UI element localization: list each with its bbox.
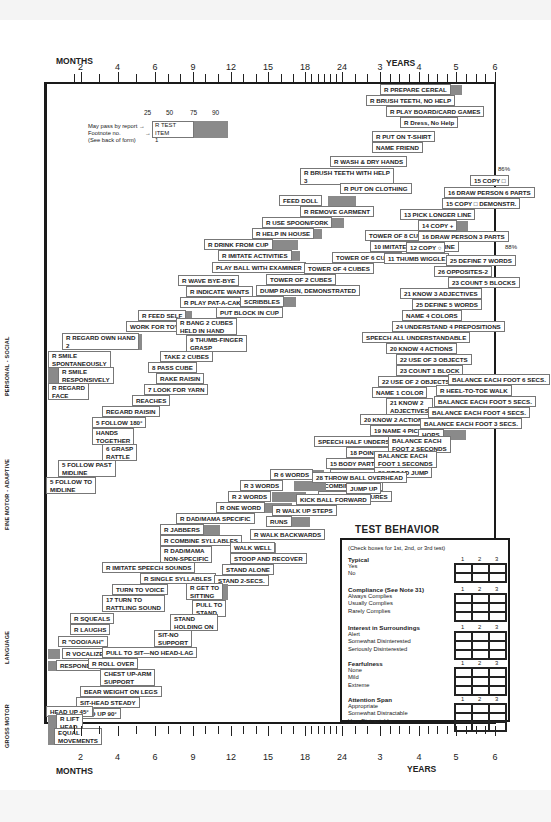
milestone-item[interactable]: R ONE WORD xyxy=(216,502,265,513)
milestone-item[interactable]: JUMP UP xyxy=(346,483,381,494)
behavior-checkbox[interactable] xyxy=(489,722,506,731)
milestone-item[interactable]: BALANCE EACH FOOT 3 SECS. xyxy=(420,418,522,429)
behavior-checkbox[interactable] xyxy=(472,641,489,650)
milestone-item[interactable]: SIT-NO SUPPORT xyxy=(154,630,192,647)
milestone-item[interactable]: 13 PICK LONGER LINE xyxy=(400,209,475,220)
milestone-item[interactable]: 14 COPY + xyxy=(418,220,457,231)
behavior-checkbox[interactable] xyxy=(472,668,489,677)
milestone-item[interactable]: HANDS TOGETHER xyxy=(92,428,134,445)
milestone-item[interactable]: SCRIBBLES xyxy=(240,296,284,307)
behavior-checkbox[interactable] xyxy=(455,603,472,612)
milestone-item[interactable]: STOOP AND RECOVER xyxy=(230,553,307,564)
milestone-item[interactable]: 11 THUMB WIGGLE xyxy=(384,253,449,264)
milestone-item[interactable]: 21 KNOW 2 ADJECTIVES xyxy=(386,398,433,415)
behavior-checkbox[interactable] xyxy=(489,594,506,603)
behavior-checkbox[interactable] xyxy=(455,650,472,659)
behavior-checkbox[interactable] xyxy=(489,641,506,650)
behavior-checkbox[interactable] xyxy=(472,650,489,659)
behavior-checkbox[interactable] xyxy=(489,564,506,573)
milestone-item[interactable]: 17 TURN TO RATTLING SOUND xyxy=(102,595,165,612)
behavior-checkbox[interactable] xyxy=(455,677,472,686)
milestone-item[interactable]: 9 THUMB-FINGER GRASP xyxy=(186,335,247,352)
behavior-checkbox[interactable] xyxy=(489,713,506,722)
milestone-item[interactable]: R 2 WORDS xyxy=(228,491,271,502)
milestone-item[interactable]: R USE SPOON/FORK xyxy=(262,217,332,228)
milestone-item[interactable]: NAME 1 COLOR xyxy=(372,387,427,398)
milestone-item[interactable]: BALANCE EACH FOOT 5 SECS. xyxy=(434,396,536,407)
milestone-item[interactable]: 5 FOLLOW 180° xyxy=(92,417,146,428)
milestone-item[interactable]: R REGARD OWN HAND 2 xyxy=(62,333,139,350)
milestone-item[interactable]: BALANCE EACH FOOT 4 SECS. xyxy=(428,407,530,418)
milestone-item[interactable]: R WALK UP STEPS xyxy=(272,505,337,516)
milestone-item[interactable]: R WAVE BYE-BYE xyxy=(178,275,239,286)
milestone-item[interactable]: NAME 4 COLORS xyxy=(402,310,462,321)
milestone-item[interactable]: R PUT ON CLOTHING xyxy=(340,183,412,194)
behavior-checkbox[interactable] xyxy=(472,632,489,641)
milestone-item[interactable]: 12 COPY ○ xyxy=(406,242,445,253)
milestone-item[interactable]: TOWER OF 4 CUBES xyxy=(304,263,374,274)
milestone-item[interactable]: TURN TO VOICE xyxy=(112,584,168,595)
milestone-item[interactable]: STAND HOLDING ON xyxy=(170,614,218,631)
milestone-item[interactable]: 25 DEFINE 5 WORDS xyxy=(412,299,482,310)
behavior-checkbox[interactable] xyxy=(455,612,472,621)
milestone-item[interactable]: R BRUSH TEETH, NO HELP xyxy=(366,95,455,106)
milestone-item[interactable]: PULL TO SIT—NO HEAD-LAG xyxy=(102,647,197,658)
behavior-checkbox[interactable] xyxy=(472,722,489,731)
behavior-checkbox[interactable] xyxy=(472,686,489,695)
milestone-item[interactable]: DUMP RAISIN, DEMONSTRATED xyxy=(256,285,360,296)
milestone-item[interactable]: R SMILE SPONTANEOUSLY xyxy=(48,351,111,368)
behavior-checkbox[interactable] xyxy=(472,573,489,582)
milestone-item[interactable]: 8 PASS CUBE xyxy=(148,362,197,373)
behavior-checkbox[interactable] xyxy=(472,594,489,603)
milestone-item[interactable]: R IMITATE SPEECH SOUNDS xyxy=(102,562,195,573)
behavior-checkbox[interactable] xyxy=(455,564,472,573)
milestone-item[interactable]: STAND ALONE xyxy=(222,564,274,575)
milestone-item[interactable]: R PUT ON T-SHIRT xyxy=(372,131,435,142)
milestone-item[interactable]: 15 COPY □ xyxy=(470,175,509,186)
behavior-checkbox[interactable] xyxy=(472,713,489,722)
milestone-item[interactable]: R Dress, No Help xyxy=(400,117,458,128)
behavior-checkbox[interactable] xyxy=(472,612,489,621)
milestone-item[interactable]: R ROLL OVER xyxy=(88,658,138,669)
milestone-item[interactable]: R DAD/MAMA NON-SPECIFIC xyxy=(160,546,212,563)
milestone-item[interactable]: R DRINK FROM CUP xyxy=(204,239,273,250)
behavior-checkbox[interactable] xyxy=(489,650,506,659)
milestone-item[interactable]: EQUAL MOVEMENTS xyxy=(54,728,102,745)
milestone-item[interactable]: R BANG 2 CUBES HELD IN HAND xyxy=(176,318,237,335)
behavior-checkbox[interactable] xyxy=(455,713,472,722)
milestone-item[interactable]: BEAR WEIGHT ON LEGS xyxy=(80,686,162,697)
behavior-checkbox[interactable] xyxy=(489,668,506,677)
behavior-checkbox[interactable] xyxy=(489,632,506,641)
behavior-checkbox[interactable] xyxy=(455,641,472,650)
milestone-item[interactable]: WORK FOR TOY xyxy=(126,321,183,332)
milestone-item[interactable]: R JABBERS xyxy=(160,524,204,535)
milestone-item[interactable]: RUNS xyxy=(266,516,292,527)
milestone-item[interactable]: 5 FOLLOW TO MIDLINE xyxy=(46,477,96,494)
milestone-item[interactable]: TOWER OF 2 CUBES xyxy=(266,274,336,285)
milestone-item[interactable]: R WASH & DRY HANDS xyxy=(330,156,407,167)
milestone-item[interactable]: 25 DEFINE 7 WORDS xyxy=(446,255,516,266)
milestone-item[interactable]: R IMITATE ACTIVITIES xyxy=(218,250,292,261)
behavior-checkbox[interactable] xyxy=(472,704,489,713)
milestone-item[interactable]: WALK WELL xyxy=(230,542,275,553)
milestone-item[interactable]: R REMOVE GARMENT xyxy=(300,206,374,217)
behavior-checkbox[interactable] xyxy=(489,704,506,713)
milestone-item[interactable]: 22 USE OF 3 OBJECTS xyxy=(396,354,472,365)
milestone-item[interactable]: 16 DRAW PERSON 6 PARTS xyxy=(444,187,535,198)
milestone-item[interactable]: 24 UNDERSTAND 4 PREPOSITIONS xyxy=(392,321,505,332)
behavior-checkbox[interactable] xyxy=(489,573,506,582)
milestone-item[interactable]: 7 LOOK FOR YARN xyxy=(144,384,208,395)
behavior-checkbox[interactable] xyxy=(455,632,472,641)
milestone-item[interactable]: 16 DRAW PERSON 3 PARTS xyxy=(418,231,509,242)
milestone-item[interactable]: FEED DOLL xyxy=(279,195,322,206)
milestone-item[interactable]: NAME FRIEND xyxy=(372,142,423,153)
milestone-item[interactable]: 23 COUNT 5 BLOCKS xyxy=(448,277,520,288)
milestone-item[interactable]: R GET TO SITTING xyxy=(186,583,223,600)
behavior-checkbox[interactable] xyxy=(489,603,506,612)
milestone-item[interactable]: 6 GRASP RATTLE xyxy=(102,444,137,461)
milestone-item[interactable]: RAKE RAISIN xyxy=(156,373,204,384)
behavior-checkbox[interactable] xyxy=(455,668,472,677)
milestone-item[interactable]: 26 OPPOSITES-2 xyxy=(434,266,492,277)
behavior-checkbox[interactable] xyxy=(472,564,489,573)
milestone-item[interactable]: PLAY BALL WITH EXAMINER xyxy=(212,262,306,273)
